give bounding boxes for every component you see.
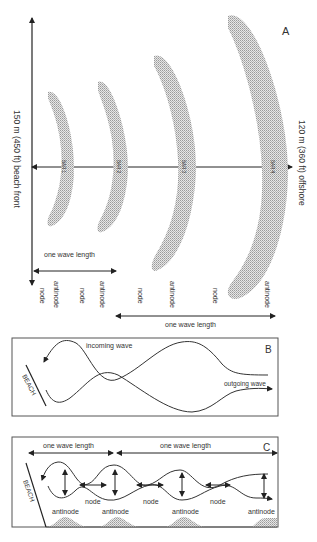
position-label: node (212, 288, 219, 304)
wavelength-1-label: one wave length (43, 442, 94, 450)
sand-mound (48, 517, 86, 527)
wavelength-bottom-text: one wave length (165, 321, 216, 329)
antinode-label: antinode (52, 508, 79, 515)
panel-c-letter: C (263, 442, 270, 453)
wavelength-top-text: one wave length (44, 251, 95, 259)
offshore-label: 120 m (360 ft) offshore (297, 120, 307, 206)
wavelength-2-label: one wave length (160, 442, 211, 450)
position-label: antinode (99, 281, 106, 308)
standing-wave-diagram: A 150 m (450 ft) beach front 120 m (360 … (0, 0, 317, 542)
node-label: node (143, 498, 159, 505)
node-label: node (85, 498, 101, 505)
position-label: antinode (169, 281, 176, 308)
antinode-label: antinode (102, 508, 129, 515)
beach-front-label: 150 m (450 ft) beach front (12, 110, 22, 208)
bar-3-label: BAR 3 (181, 160, 186, 174)
position-label: node (39, 288, 46, 304)
sand-bar-2 (98, 82, 129, 233)
outgoing-wave-label: outgoing wave (224, 380, 266, 388)
panel-b-letter: B (265, 344, 272, 355)
panel-a-letter: A (282, 25, 290, 37)
position-label: node (137, 288, 144, 304)
panel-a: A 150 m (450 ft) beach front 120 m (360 … (12, 15, 307, 329)
sand-bar-4 (228, 15, 288, 299)
antinode-label: antinode (248, 508, 275, 515)
bar-1-label: BAR 1 (61, 160, 66, 174)
position-label: node (79, 288, 86, 304)
position-label: antinode (53, 281, 60, 308)
sand-mound (100, 517, 138, 527)
sand-bar-1 (48, 92, 75, 227)
antinode-label: antinode (172, 508, 199, 515)
sand-mound (252, 518, 277, 527)
sand-mound (166, 517, 204, 527)
standing-wave-lower (48, 485, 272, 501)
incoming-wave-label: incoming wave (86, 342, 132, 350)
bar-2-label: BAR 2 (116, 160, 121, 174)
bar-4-label: BAR 4 (270, 160, 275, 174)
standing-wave-upper (42, 462, 268, 488)
sand-bar-3 (152, 55, 196, 271)
incoming-wave-curve (44, 340, 268, 380)
panel-c: C one wave length one wave length BEACH … (12, 437, 278, 527)
outgoing-wave-curve (46, 373, 272, 412)
node-label: node (210, 498, 226, 505)
panel-b: B BEACH incoming wave outgoing wave (12, 338, 278, 416)
position-label: antinode (264, 281, 271, 308)
